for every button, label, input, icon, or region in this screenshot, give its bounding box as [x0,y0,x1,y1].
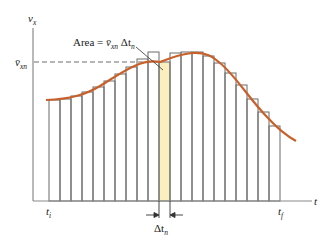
y-axis-label: vx [28,12,37,27]
rectangle [137,59,148,201]
delta-t-label: Δtn [154,222,168,237]
rectangle [258,112,269,201]
rectangle [126,67,137,201]
x-axis-label: t [314,195,318,207]
average-velocity-label: v̄xn [15,56,27,71]
rectangle [181,52,192,201]
area-label: Area = v̄xn Δtn [73,36,135,51]
rectangle [115,74,126,201]
rectangle [60,99,71,201]
rectangle [247,99,258,201]
rectangle [82,92,93,201]
highlighted-strip [159,62,170,201]
rectangle [214,63,225,201]
t-initial-label: ti [46,205,51,220]
t-final-label: tf [278,205,284,220]
rectangle [71,96,82,201]
riemann-diagram: vx v̄xn Area = v̄xn Δtn t ti tf Δtn [0,0,334,242]
rectangle [192,52,203,201]
rectangle [236,85,247,201]
delta-t-arrows [146,201,183,218]
rectangle [225,73,236,201]
rectangle [170,53,181,201]
rectangle [93,87,104,201]
rectangle [269,126,280,201]
rectangle [49,100,60,201]
rectangle [104,81,115,201]
rectangle [203,56,214,201]
rectangle [148,52,159,201]
